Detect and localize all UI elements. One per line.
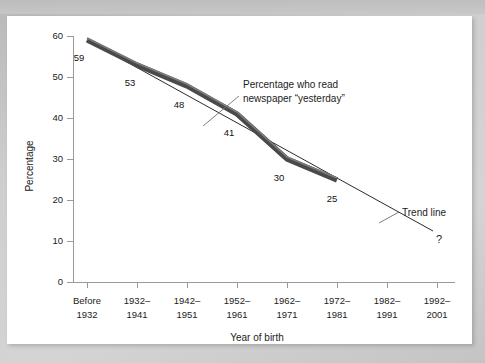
x-axis-ticks [87, 282, 437, 288]
trend-annotation-label: Trend line [402, 207, 447, 218]
x-cat-4-line1: 1962– [274, 295, 301, 306]
page-top-strip [0, 0, 485, 14]
data-label-41: 41 [224, 127, 235, 138]
x-cat-7-line1: 1992– [424, 295, 451, 306]
y-tick-label-30: 30 [52, 153, 63, 164]
trend-annotation-leader [379, 212, 399, 223]
x-cat-1-line1: 1932– [124, 295, 151, 306]
y-tick-label-20: 20 [52, 194, 63, 205]
y-tick-label-60: 60 [52, 30, 63, 41]
x-axis-category-labels: Before 1932 1932– 1941 1942– 1951 1952– … [73, 295, 451, 320]
x-cat-2-line2: 1951 [176, 309, 197, 320]
x-cat-4-line2: 1971 [276, 309, 297, 320]
y-tick-label-50: 50 [52, 71, 63, 82]
chart-screenshot: 0 10 20 30 40 50 60 Percentage Be [0, 0, 485, 363]
x-cat-2-line1: 1942– [174, 295, 201, 306]
chart-figure: 0 10 20 30 40 50 60 Percentage Be [7, 16, 472, 344]
x-cat-3-line2: 1961 [226, 309, 247, 320]
series-annotation-line1: Percentage who read [243, 79, 338, 90]
x-axis-title: Year of birth [230, 332, 284, 343]
series-line-newspaper [87, 40, 337, 180]
x-cat-1-line2: 1941 [126, 309, 147, 320]
x-cat-0-line2: 1932 [76, 309, 97, 320]
x-cat-3-line1: 1952– [224, 295, 251, 306]
x-cat-7-line2: 2001 [426, 309, 447, 320]
x-cat-5-line1: 1972– [324, 295, 351, 306]
x-cat-0-line1: Before [73, 295, 101, 306]
data-label-53: 53 [125, 77, 136, 88]
chart-panel: 0 10 20 30 40 50 60 Percentage Be [7, 16, 472, 344]
x-cat-6-line2: 1991 [376, 309, 397, 320]
y-tick-label-0: 0 [58, 276, 63, 287]
y-tick-label-40: 40 [52, 112, 63, 123]
y-axis-ticks [67, 36, 73, 282]
series-annotation-line2: newspaper “yesterday” [243, 93, 345, 104]
data-label-59: 59 [74, 52, 85, 63]
x-cat-6-line1: 1982– [374, 295, 401, 306]
x-cat-5-line2: 1981 [326, 309, 347, 320]
y-tick-label-10: 10 [52, 235, 63, 246]
y-axis-title: Percentage [24, 140, 35, 192]
data-label-48: 48 [174, 99, 185, 110]
trend-end-question-mark: ? [436, 233, 442, 245]
data-label-30: 30 [274, 172, 285, 183]
data-label-25: 25 [327, 193, 338, 204]
